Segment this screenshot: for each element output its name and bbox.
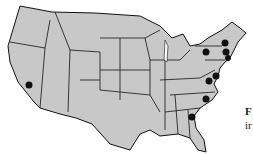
- us-map: [0, 0, 253, 154]
- marker-new-york: [203, 49, 210, 56]
- caption-line-1: F: [245, 105, 252, 117]
- marker-maryland: [213, 73, 220, 80]
- marker-vermont: [222, 40, 229, 47]
- marker-virginia: [206, 78, 213, 85]
- caption-line-2: ir: [245, 119, 252, 131]
- marker-connecticut: [225, 55, 231, 61]
- marker-california: [26, 82, 33, 89]
- marker-georgia: [189, 114, 196, 121]
- marker-massachusetts: [223, 49, 230, 56]
- marker-north-carolina: [203, 96, 210, 103]
